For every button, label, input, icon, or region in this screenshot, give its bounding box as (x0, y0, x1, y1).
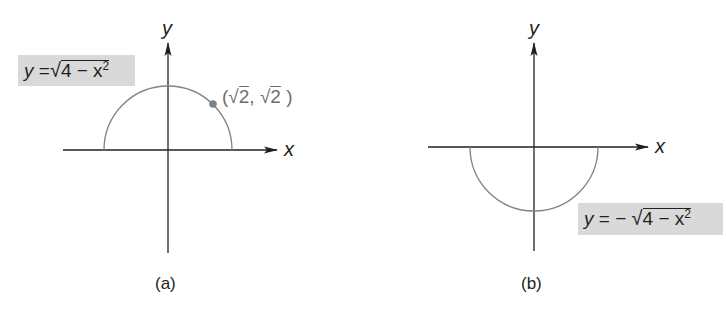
eq-lhs: y (584, 208, 594, 229)
x-axis-label-a: x (284, 138, 294, 161)
eq-lhs: y (24, 60, 34, 81)
eq-equals: = (39, 60, 50, 81)
sqrt-icon: √ (228, 86, 238, 107)
eq-exponent: 2 (684, 207, 691, 221)
radicand-text: 4 − x (643, 208, 685, 229)
x-axis-label-b: x (655, 135, 665, 158)
highlight-point (209, 100, 217, 108)
point-x-radicand: 2 (239, 86, 250, 107)
comma: , (249, 86, 254, 107)
paren-close: ) (286, 86, 292, 107)
eq-equals: = (599, 208, 610, 229)
eq-negative: − (615, 208, 626, 229)
eq-exponent: 2 (103, 59, 110, 73)
equation-box-a: y =√4 − x2 (18, 55, 135, 86)
point-y-radicand: 2 (270, 86, 281, 107)
sqrt-icon: √ (632, 207, 643, 229)
caption-b: (b) (521, 274, 542, 294)
equation-box-b: y = − √4 − x2 (578, 203, 723, 235)
y-axis-label-a: y (162, 17, 172, 40)
sqrt-icon: √ (50, 59, 61, 81)
y-axis-label-b: y (529, 17, 539, 40)
eq-radicand: 4 − x2 (643, 208, 691, 229)
radicand-text: 4 − x (61, 60, 103, 81)
caption-a: (a) (155, 274, 176, 294)
figure-canvas (0, 0, 726, 314)
point-label: (√2, √2 ) (222, 86, 293, 108)
sqrt-icon: √ (260, 86, 270, 107)
eq-radicand: 4 − x2 (61, 60, 109, 81)
